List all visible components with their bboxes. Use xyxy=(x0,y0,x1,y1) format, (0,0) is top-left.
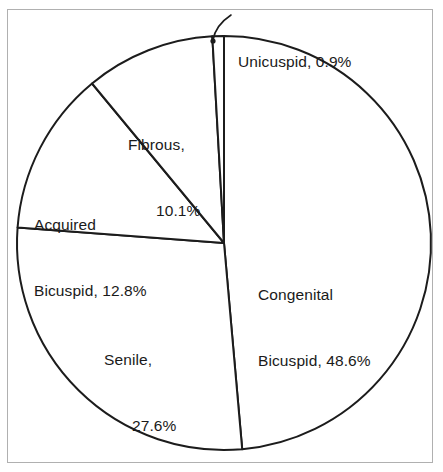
slice-label-acquired-bicuspid-line1: Acquired xyxy=(34,214,147,236)
pie-chart-figure: Unicuspid, 0.9% Fibrous, 10.1% Acquired … xyxy=(0,0,443,472)
slice-label-unicuspid-line1: Unicuspid, 0.9% xyxy=(238,51,352,73)
slice-label-senile-line2: 27.6% xyxy=(104,415,176,437)
slice-label-senile-line1: Senile, xyxy=(104,349,176,371)
slice-label-fibrous-line1: Fibrous, xyxy=(128,134,200,156)
slice-label-congenital-bicuspid-line2: Bicuspid, 48.6% xyxy=(258,350,371,372)
slice-label-acquired-bicuspid-line2: Bicuspid, 12.8% xyxy=(34,280,147,302)
slice-label-congenital-bicuspid: Congenital Bicuspid, 48.6% xyxy=(258,240,371,416)
unicuspid-leader-dot xyxy=(210,38,215,43)
slice-label-senile: Senile, 27.6% xyxy=(104,305,176,472)
slice-label-congenital-bicuspid-line1: Congenital xyxy=(258,284,371,306)
slice-label-unicuspid: Unicuspid, 0.9% xyxy=(238,7,352,117)
